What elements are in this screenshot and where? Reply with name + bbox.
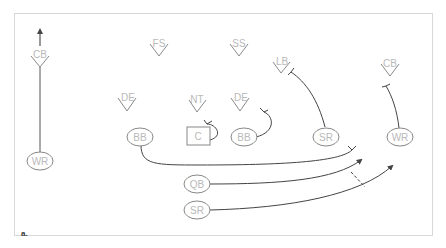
defender-label: LB: [276, 56, 289, 67]
player-bb-right: BB: [231, 128, 257, 146]
player-bb-left: BB: [127, 128, 153, 146]
defender-label: SS: [232, 38, 246, 49]
defender-label: CB: [383, 58, 397, 69]
player-wr-left: WR: [27, 152, 53, 170]
player-sr-right: SR: [313, 128, 339, 146]
diagram-frame: [15, 14, 433, 236]
player-label: BB: [237, 132, 251, 143]
player-wr-right: WR: [387, 128, 413, 146]
player-label: C: [194, 131, 201, 142]
defender-label: DE: [121, 92, 135, 103]
defender-label: FS: [153, 38, 166, 49]
player-label: SR: [319, 132, 333, 143]
play-diagram: CB FS SS LB CB DE NT DE: [0, 0, 446, 248]
player-label: WR: [392, 132, 409, 143]
figure-caption: a.: [21, 229, 28, 238]
player-label: WR: [32, 156, 49, 167]
player-center: C: [187, 127, 210, 145]
defender-label: NT: [190, 94, 203, 105]
defender-label: CB: [33, 49, 47, 60]
player-sr-back: SR: [184, 201, 210, 219]
player-label: QB: [190, 179, 205, 190]
player-qb: QB: [184, 175, 210, 193]
player-label: SR: [190, 205, 204, 216]
defender-label: DE: [234, 92, 248, 103]
player-label: BB: [133, 132, 147, 143]
